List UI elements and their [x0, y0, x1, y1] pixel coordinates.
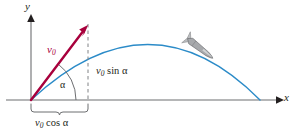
rocket-icon	[182, 32, 217, 64]
v0-sin-angle: α	[122, 65, 128, 76]
axes-group	[6, 14, 284, 104]
alpha-angle-label: α	[60, 80, 65, 90]
horizontal-component-brace	[31, 104, 88, 115]
y-axis-label: y	[25, 1, 30, 12]
x-axis-label: x	[284, 92, 289, 103]
v0-sin-fn-text: sin	[107, 65, 119, 76]
v0-cos-fn-text: cos	[46, 117, 60, 128]
v0-vector-label: v0	[47, 44, 56, 57]
v0-label-subscript: 0	[52, 48, 56, 57]
figure-canvas	[0, 0, 293, 131]
v0-vector-arrowhead	[79, 25, 88, 33]
x-axis-arrowhead	[276, 96, 284, 104]
brace-path	[31, 104, 88, 115]
y-axis-arrowhead	[27, 14, 35, 22]
v0-sin-alpha-label: v0 sin α	[96, 66, 127, 78]
projectile-motion-figure: y x v0 α v0 sin α v0 cos α	[0, 0, 293, 131]
v0-cos-angle: α	[63, 117, 69, 128]
v0-cos-alpha-label: v0 cos α	[35, 118, 68, 130]
